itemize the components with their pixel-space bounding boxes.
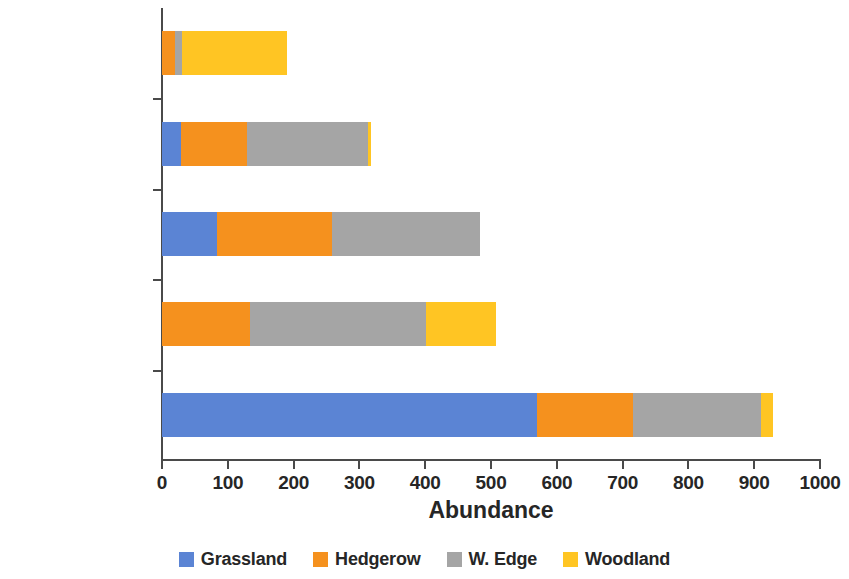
x-axis-tick (424, 460, 426, 469)
bar-segment-grassland (162, 212, 217, 256)
plot-area: Meadow BrownRingletSkippersGatekeeperSpe… (162, 8, 820, 460)
x-axis-tick (161, 460, 163, 469)
bar-row: Skippers (162, 212, 820, 256)
bar-segment-woodland (368, 122, 371, 166)
x-axis-tick (227, 460, 229, 469)
legend-label: W. Edge (469, 549, 538, 570)
bar-segment-hedgerow (162, 31, 175, 75)
legend-swatch-icon (447, 552, 462, 567)
x-axis-tick (819, 460, 821, 469)
bar-segment-grassland (162, 122, 181, 166)
y-axis-tick (153, 98, 162, 100)
legend-label: Grassland (201, 549, 287, 570)
x-axis-tick (687, 460, 689, 469)
legend-item[interactable]: Hedgerow (313, 549, 420, 570)
legend-swatch-icon (179, 552, 194, 567)
x-axis-tick (622, 460, 624, 469)
bar-segment-w-edge (332, 212, 480, 256)
bar-segment-w-edge (633, 393, 761, 437)
abundance-stacked-bar-chart: Meadow BrownRingletSkippersGatekeeperSpe… (0, 0, 849, 579)
x-axis-tick (753, 460, 755, 469)
bar-segment-grassland (162, 393, 537, 437)
x-axis-tick-label: 300 (344, 472, 375, 494)
legend-item[interactable]: Woodland (563, 549, 670, 570)
legend-swatch-icon (313, 552, 328, 567)
bar-segment-hedgerow (181, 122, 247, 166)
x-axis-tick-label: 900 (739, 472, 770, 494)
x-axis-tick-label: 800 (673, 472, 704, 494)
x-axis-tick-label: 200 (278, 472, 309, 494)
x-axis-tick-label: 400 (410, 472, 441, 494)
y-axis-tick (153, 189, 162, 191)
bar-row: Gatekeeper (162, 122, 820, 166)
y-axis-tick (153, 279, 162, 281)
bar-segment-w-edge (250, 302, 426, 346)
x-axis-tick-label: 500 (476, 472, 507, 494)
legend-label: Hedgerow (335, 549, 420, 570)
bar-segment-w-edge (247, 122, 368, 166)
x-axis-tick (490, 460, 492, 469)
bar-segment-hedgerow (217, 212, 331, 256)
bar-segment-hedgerow (162, 302, 250, 346)
x-axis-tick-label: 100 (212, 472, 243, 494)
x-axis-tick-label: 600 (541, 472, 572, 494)
x-axis-tick-label: 700 (607, 472, 638, 494)
bar-row: Ringlet (162, 302, 820, 346)
legend-item[interactable]: Grassland (179, 549, 287, 570)
chart-legend: GrasslandHedgerowW. EdgeWoodland (0, 549, 849, 570)
legend-item[interactable]: W. Edge (447, 549, 538, 570)
bar-row: Speckled Wood (162, 31, 820, 75)
legend-swatch-icon (563, 552, 578, 567)
y-axis-tick (153, 370, 162, 372)
x-axis-tick (293, 460, 295, 469)
x-axis-title: Abundance (162, 497, 820, 524)
bar-segment-woodland (182, 31, 287, 75)
bar-row: Meadow Brown (162, 393, 820, 437)
x-axis-tick (556, 460, 558, 469)
x-axis-tick-label: 1000 (799, 472, 840, 494)
x-axis-tick (358, 460, 360, 469)
bar-segment-woodland (426, 302, 496, 346)
bar-segment-woodland (761, 393, 773, 437)
legend-label: Woodland (585, 549, 670, 570)
x-axis-tick-label: 0 (157, 472, 167, 494)
bar-segment-w-edge (175, 31, 182, 75)
bar-segment-hedgerow (537, 393, 633, 437)
